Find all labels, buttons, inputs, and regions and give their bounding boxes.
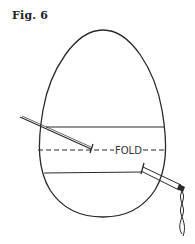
- egg-diagram: FOLD: [0, 0, 195, 244]
- left-needle: [20, 116, 93, 153]
- fold-label: FOLD: [115, 145, 142, 156]
- thread: [180, 190, 184, 236]
- lower-stitch-line: [44, 172, 142, 173]
- egg-outline: [39, 30, 165, 217]
